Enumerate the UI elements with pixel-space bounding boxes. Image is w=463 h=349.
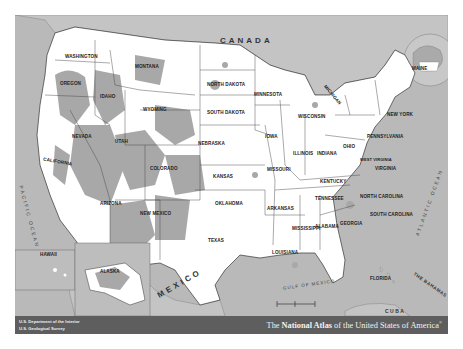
label-south-dakota: SOUTH DAKOTA xyxy=(207,111,245,116)
title-bold: National Atlas xyxy=(282,321,332,330)
label-washington: WASHINGTON xyxy=(65,55,98,60)
label-alaska: ALASKA xyxy=(100,270,120,275)
title-suffix: of the United States of America xyxy=(332,321,439,330)
label-north-carolina: NORTH CAROLINA xyxy=(360,195,403,200)
label-ohio: OHIO xyxy=(343,145,355,150)
label-florida: FLORIDA xyxy=(370,277,391,282)
label-north-dakota: NORTH DAKOTA xyxy=(207,83,245,88)
label-canada: CANADA xyxy=(220,37,273,45)
label-maine: MAINE xyxy=(412,67,427,72)
label-south-carolina: SOUTH CAROLINA xyxy=(370,213,413,218)
label-kentucky: KENTUCKY xyxy=(320,180,346,185)
label-nebraska: NEBRASKA xyxy=(198,142,225,147)
label-georgia: GEORGIA xyxy=(340,222,362,227)
label-new-mexico: NEW MEXICO xyxy=(140,212,171,217)
label-colorado: COLORADO xyxy=(150,167,178,172)
label-texas: TEXAS xyxy=(208,239,224,244)
label-wisconsin: WISCONSIN xyxy=(298,115,325,120)
label-nevada: NEVADA xyxy=(72,135,92,140)
label-iowa: IOWA xyxy=(265,135,278,140)
scale-bar xyxy=(277,301,315,307)
label-utah: UTAH xyxy=(115,140,128,145)
atlas-title: The National Atlas of the United States … xyxy=(267,320,442,330)
label-arkansas: ARKANSAS xyxy=(267,207,294,212)
label-wyoming: WYOMING xyxy=(143,108,167,113)
label-alabama: ALABAMA xyxy=(315,225,339,230)
registered-mark: ® xyxy=(439,320,442,325)
label-virginia: VIRGINIA xyxy=(375,167,396,172)
map-frame: CANADA MEXICO CUBA THE BAHAMAS PACIFIC O… xyxy=(15,15,448,334)
atlas-banner: U.S. Department of the Interior U.S. Geo… xyxy=(15,316,448,334)
label-kansas: KANSAS xyxy=(213,175,233,180)
agency-line-1: U.S. Department of the Interior xyxy=(19,319,80,324)
label-indiana: INDIANA xyxy=(317,152,337,157)
label-missouri: MISSOURI xyxy=(267,168,291,173)
label-arizona: ARIZONA xyxy=(100,202,122,207)
label-hawaii: HAWAII xyxy=(40,253,57,258)
agency-line-2: U.S. Geological Survey xyxy=(19,326,65,331)
label-idaho: IDAHO xyxy=(100,95,115,100)
label-pennsylvania: PENNSYLVANIA xyxy=(367,135,404,140)
label-oregon: OREGON xyxy=(60,82,81,87)
title-prefix: The xyxy=(267,321,282,330)
label-louisiana: LOUISIANA xyxy=(272,251,298,256)
label-west-virginia: WEST VIRGINIA xyxy=(360,158,392,162)
label-montana: MONTANA xyxy=(135,65,159,70)
label-oklahoma: OKLAHOMA xyxy=(215,202,243,207)
label-new-york: NEW YORK xyxy=(387,113,413,118)
label-illinois: ILLINOIS xyxy=(293,152,313,157)
label-minnesota: MINNESOTA xyxy=(254,93,282,98)
label-cuba: CUBA xyxy=(385,309,405,314)
label-tennessee: TENNESSEE xyxy=(315,197,344,202)
